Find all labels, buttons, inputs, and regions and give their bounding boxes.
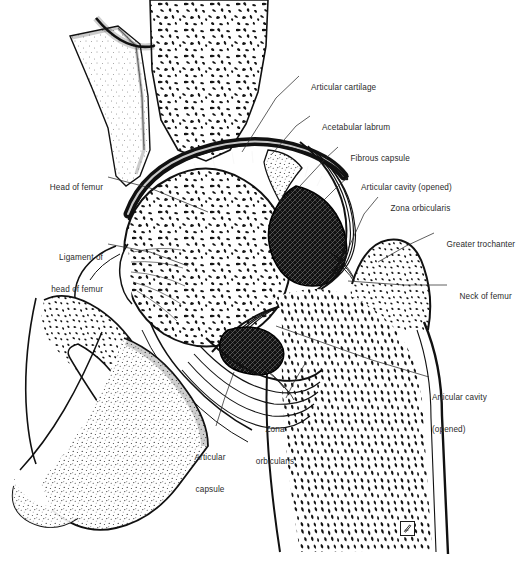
label-line-2: (opened) bbox=[432, 425, 487, 436]
label-articular-capsule: Articular capsule bbox=[180, 432, 240, 516]
label-line-2: capsule bbox=[180, 485, 240, 496]
label-line-1: Articular bbox=[180, 453, 240, 464]
label-zona-orbicularis-upper: Zona orbicularis bbox=[381, 193, 450, 225]
articular-cavity-inferior bbox=[220, 327, 284, 375]
label-line-1: Articular cavity bbox=[432, 393, 487, 404]
label-articular-cartilage: Articular cartilage bbox=[302, 72, 376, 104]
hip-joint-figure: Articular cartilage Acetabular labrum Fi… bbox=[0, 0, 530, 564]
label-ligament-of-head-of-femur: Ligament of head of femur bbox=[13, 232, 103, 316]
label-line-2: head of femur bbox=[13, 285, 103, 296]
label-greater-trochanter: Greater trochanter bbox=[437, 229, 515, 261]
label-fibrous-capsule: Fibrous capsule bbox=[341, 143, 410, 175]
label-line-2: orbicularis bbox=[245, 457, 305, 468]
label-zona-orbicularis-lower: Zona orbicularis bbox=[245, 404, 305, 488]
label-articular-cavity-opened-lower: Articular cavity (opened) bbox=[432, 372, 487, 456]
label-acetabular-labrum: Acetabular labrum bbox=[313, 112, 390, 144]
artist-signature-icon bbox=[400, 521, 415, 536]
label-line-1: Ligament of bbox=[13, 253, 103, 264]
pubic-ramus-structure bbox=[70, 18, 154, 186]
label-neck-of-femur: Neck of femur bbox=[450, 281, 512, 313]
femoral-head-structure bbox=[120, 168, 291, 346]
label-line-1: Zona bbox=[245, 425, 305, 436]
ilium-structure bbox=[150, 0, 268, 161]
label-head-of-femur: Head of femur bbox=[23, 172, 103, 204]
